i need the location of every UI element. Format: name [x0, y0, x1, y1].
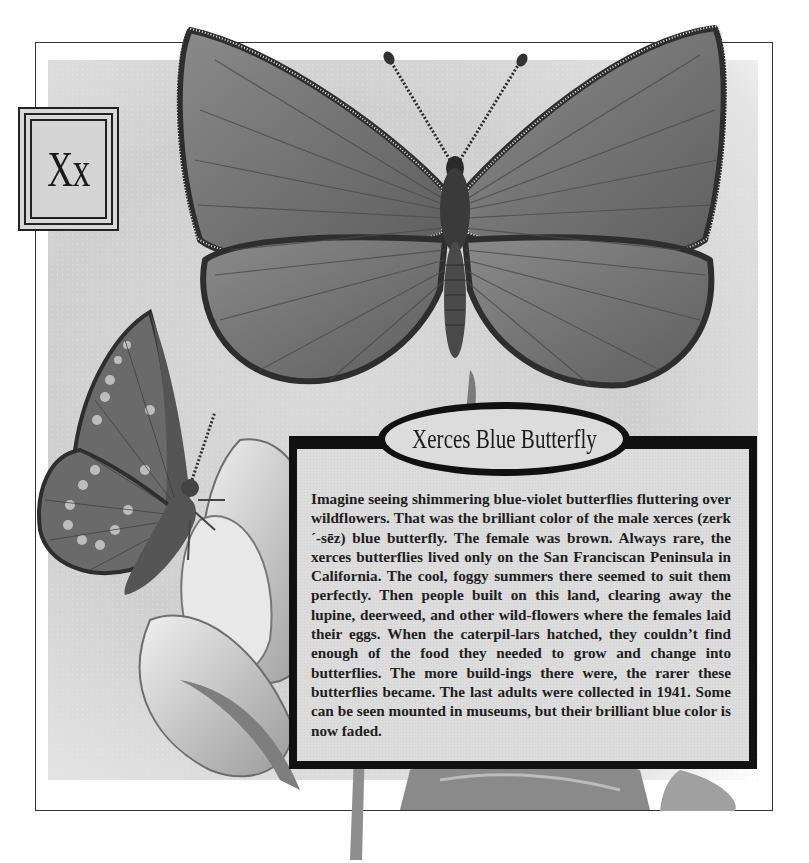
title-oval: Xerces Blue Butterfly [378, 402, 630, 476]
main-butterfly-illustration [177, 26, 727, 385]
page-title: Xerces Blue Butterfly [412, 424, 597, 455]
title-bar-right [627, 436, 757, 443]
title-bar-left [289, 436, 381, 443]
alphabet-letter-box: Xx [18, 107, 119, 231]
description-panel: Imagine seeing shimmering blue-violet bu… [289, 441, 757, 769]
letter-box-inner-border: Xx [24, 113, 113, 225]
description-text: Imagine seeing shimmering blue-violet bu… [311, 489, 731, 740]
alphabet-letter: Xx [47, 144, 90, 194]
letter-box-panel: Xx [30, 119, 107, 219]
